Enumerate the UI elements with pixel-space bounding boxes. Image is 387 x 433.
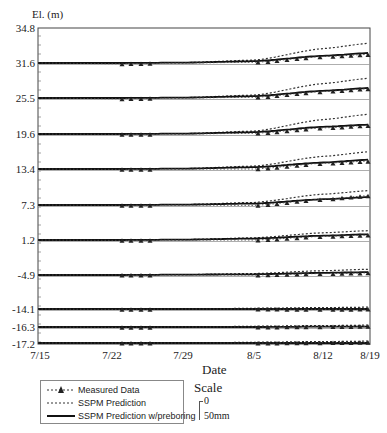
x-axis-title: Date xyxy=(202,362,227,378)
x-tick: 8/5 xyxy=(247,349,261,361)
dotted-line-icon xyxy=(47,398,75,408)
triangle-marker-icon xyxy=(47,385,75,395)
scale-title: Scale xyxy=(194,380,222,396)
legend-ssp: SSPM Prediction xyxy=(47,397,146,409)
legend-ssp-label: SSPM Prediction xyxy=(78,398,146,408)
scale-zero-label: 0 xyxy=(204,395,209,406)
legend: Measured Data SSPM Prediction SSPM Predi… xyxy=(40,380,184,424)
legend-ssp-preboring-label: SSPM Prediction w/preboring xyxy=(78,411,196,421)
curve-group xyxy=(38,43,371,66)
curve-group xyxy=(38,78,371,101)
settlement-plot xyxy=(0,0,387,360)
curve-groups xyxy=(38,43,371,345)
plot-frame xyxy=(38,28,370,344)
curve-group xyxy=(38,324,371,330)
curve-group xyxy=(38,114,371,137)
x-tick: 7/29 xyxy=(173,349,193,361)
x-tick: 8/19 xyxy=(360,349,380,361)
curve-group xyxy=(38,191,371,208)
x-tick: 7/22 xyxy=(102,349,122,361)
x-tick: 8/12 xyxy=(313,349,333,361)
legend-measured: Measured Data xyxy=(47,384,140,396)
curve-group xyxy=(38,231,371,243)
scale-max-label: 50mm xyxy=(204,410,230,421)
x-tick: 7/15 xyxy=(30,349,50,361)
legend-measured-label: Measured Data xyxy=(78,385,140,395)
solid-line-icon xyxy=(47,411,75,421)
curve-group xyxy=(38,269,371,277)
scale-bar xyxy=(199,401,203,420)
curve-group xyxy=(38,340,371,345)
curve-group xyxy=(38,152,371,172)
curve-group xyxy=(38,307,371,312)
legend-ssp-preboring: SSPM Prediction w/preboring xyxy=(47,410,196,422)
